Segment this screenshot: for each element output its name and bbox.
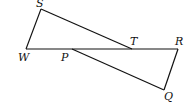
label-q: Q xyxy=(164,90,173,103)
segment-pq xyxy=(72,49,164,90)
label-s: S xyxy=(36,0,44,10)
geometry-figure: S W P T R Q xyxy=(0,0,193,103)
label-r: R xyxy=(174,35,183,48)
segment-st xyxy=(41,9,132,49)
label-t: T xyxy=(130,35,139,48)
segment-sw xyxy=(26,9,41,49)
label-w: W xyxy=(18,51,31,64)
segment-rq xyxy=(164,49,178,90)
label-p: P xyxy=(60,51,69,64)
